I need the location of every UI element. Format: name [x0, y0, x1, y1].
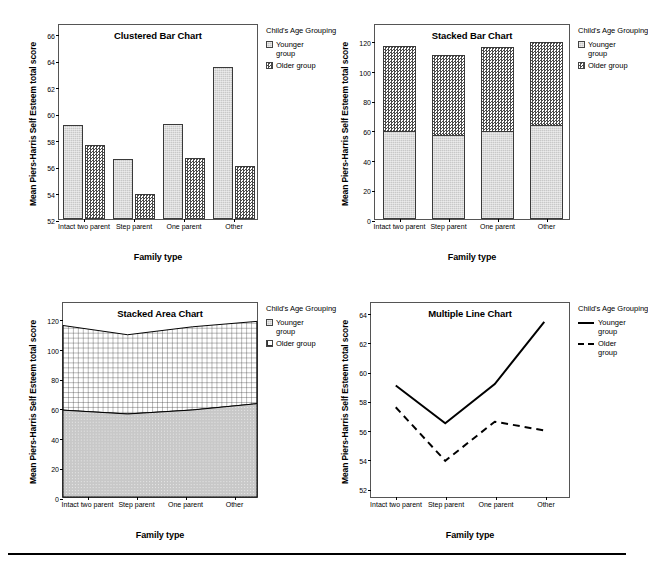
- x-axis-title: Family type: [62, 530, 258, 540]
- y-tick-label: 40: [363, 158, 375, 165]
- x-axis-title: Family type: [370, 530, 570, 540]
- y-axis-title: Mean Piers-Harris Self Esteem total scor…: [28, 29, 41, 219]
- chart-title: Stacked Bar Chart: [375, 30, 569, 41]
- y-tick-label: 66: [47, 32, 59, 39]
- plot-area-clustered: Clustered Bar Chart 5254565860626466 Int…: [58, 24, 258, 220]
- legend-item-younger[interactable]: Younger group: [266, 318, 322, 336]
- bar-younger: [113, 159, 133, 219]
- bar-segment-younger: [383, 131, 416, 219]
- legend-line: Child's Age Grouping Younger group Older…: [578, 304, 636, 360]
- panel-clustered-bar: Mean Piers-Harris Self Esteem total scor…: [18, 14, 318, 266]
- y-tick-label: 58: [359, 399, 371, 406]
- x-tick-mark: [498, 219, 499, 222]
- y-axis-title: Mean Piers-Harris Self Esteem total scor…: [28, 307, 41, 497]
- legend-label-younger: Younger group: [598, 318, 636, 336]
- panel-stacked-bar: Mean Piers-Harris Self Esteem total scor…: [330, 14, 630, 266]
- legend-label-younger: Younger group: [276, 318, 322, 336]
- panel-stacked-area: Mean Piers-Harris Self Esteem total scor…: [18, 292, 318, 542]
- legend-title: Child's Age Grouping: [266, 26, 322, 35]
- legend-label-younger: Younger group: [276, 40, 322, 58]
- area-younger: [63, 404, 257, 497]
- panel-multiple-line: Mean Piers-Harris Self Esteem total scor…: [330, 292, 630, 542]
- x-axis-title: Family type: [374, 252, 570, 262]
- area-older: [63, 321, 257, 414]
- x-tick-mark: [396, 497, 397, 500]
- x-tick-mark: [546, 497, 547, 500]
- x-tick-mark: [84, 219, 85, 222]
- y-tick-label: 60: [359, 370, 371, 377]
- x-tick-label: Other: [514, 501, 578, 509]
- x-tick-mark: [547, 219, 548, 222]
- y-tick-label: 58: [47, 138, 59, 145]
- chart-title: Stacked Area Chart: [63, 308, 257, 319]
- y-tick-label: 20: [51, 466, 63, 473]
- x-tick-mark: [496, 497, 497, 500]
- legend-item-older[interactable]: Older group: [578, 61, 634, 70]
- y-tick-label: 54: [359, 457, 371, 464]
- bar-younger: [63, 125, 83, 219]
- legend-swatch-older-icon: [578, 62, 585, 69]
- x-tick-mark: [449, 219, 450, 222]
- footer-rule: [8, 553, 626, 555]
- legend-area: Child's Age Grouping Younger group Older…: [266, 304, 322, 351]
- legend-item-younger[interactable]: Younger group: [578, 318, 636, 336]
- y-tick-label: 64: [359, 311, 371, 318]
- y-tick-label: 62: [359, 340, 371, 347]
- y-tick-label: 52: [359, 487, 371, 494]
- y-tick-label: 20: [363, 188, 375, 195]
- legend-item-younger[interactable]: Younger group: [266, 40, 322, 58]
- y-tick-label: 100: [359, 69, 375, 76]
- y-axis-title: Mean Piers-Harris Self Esteem total scor…: [340, 307, 353, 497]
- legend-item-older[interactable]: Older group: [266, 339, 322, 348]
- plot-area-stacked: Stacked Bar Chart 020406080100120 Intact…: [374, 24, 570, 220]
- legend-item-older[interactable]: Older group: [578, 339, 636, 357]
- y-tick-label: 56: [359, 428, 371, 435]
- legend-line-younger-icon: [578, 319, 594, 326]
- bar-older: [185, 158, 205, 219]
- bar-older: [135, 194, 155, 219]
- legend-label-older: Older group: [276, 61, 316, 70]
- line-younger: [396, 322, 545, 423]
- line-older: [396, 407, 545, 461]
- area-series-group: [63, 303, 257, 497]
- x-tick-label: Other: [202, 223, 266, 231]
- legend-swatch-younger-icon: [266, 319, 273, 326]
- y-tick-label: 62: [47, 85, 59, 92]
- legend-label-younger: Younger group: [588, 40, 634, 58]
- x-axis-title: Family type: [58, 252, 258, 262]
- y-tick-label: 56: [47, 165, 59, 172]
- legend-label-older: Older group: [276, 339, 316, 348]
- bar-older: [235, 166, 255, 219]
- chart-title: Multiple Line Chart: [371, 308, 569, 319]
- legend-swatch-older-icon: [266, 62, 273, 69]
- y-tick-label: 60: [51, 406, 63, 413]
- y-tick-label: 120: [47, 317, 63, 324]
- bar-segment-younger: [481, 131, 514, 219]
- plot-area-stackedarea: Stacked Area Chart 020406080100120 Intac…: [62, 302, 258, 498]
- x-tick-mark: [446, 497, 447, 500]
- plot-area-line: Multiple Line Chart 52545658606264 Intac…: [370, 302, 570, 498]
- legend-item-younger[interactable]: Younger group: [578, 40, 634, 58]
- y-tick-label: 54: [47, 191, 59, 198]
- legend-title: Child's Age Grouping: [578, 26, 634, 35]
- chart-title: Clustered Bar Chart: [59, 30, 257, 41]
- bar-older: [85, 145, 105, 219]
- legend-swatch-older-icon: [266, 340, 273, 347]
- x-tick-mark: [134, 219, 135, 222]
- y-tick-label: 60: [47, 112, 59, 119]
- legend-title: Child's Age Grouping: [578, 304, 636, 313]
- y-tick-label: 120: [359, 39, 375, 46]
- x-tick-label: Other: [203, 501, 267, 509]
- bar-younger: [213, 67, 233, 219]
- legend-item-older[interactable]: Older group: [266, 61, 322, 70]
- legend-label-older: Older group: [598, 339, 636, 357]
- y-tick-label: 40: [51, 436, 63, 443]
- y-tick-label: 80: [363, 99, 375, 106]
- x-tick-mark: [234, 219, 235, 222]
- y-tick-label: 64: [47, 59, 59, 66]
- legend-swatch-younger-icon: [266, 41, 273, 48]
- legend-label-older: Older group: [588, 61, 628, 70]
- y-tick-label: 60: [363, 128, 375, 135]
- y-axis-title: Mean Piers-Harris Self Esteem total scor…: [340, 29, 353, 219]
